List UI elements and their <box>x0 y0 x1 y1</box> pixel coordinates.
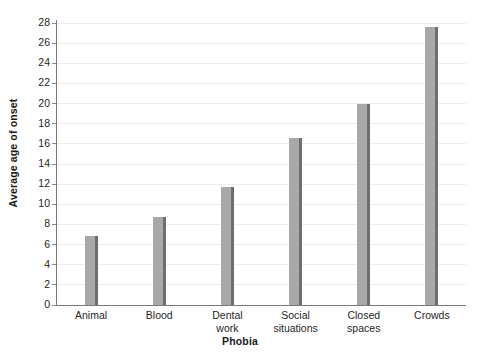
x-label-line-1: Animal <box>75 309 107 321</box>
x-label-line-1: Dental <box>212 309 242 321</box>
x-label-line-2: spaces <box>319 322 409 335</box>
x-label-line-1: Social <box>281 309 310 321</box>
x-label-line-1: Closed <box>347 309 380 321</box>
y-tick-label: 16 <box>24 137 50 149</box>
y-tick-label: 20 <box>24 97 50 109</box>
y-tick-label: 2 <box>24 278 50 290</box>
bar <box>357 104 370 305</box>
y-tick-label: 12 <box>24 177 50 189</box>
plot-area <box>57 23 466 305</box>
y-tick-label: 26 <box>24 36 50 48</box>
x-label-line-1: Blood <box>146 309 173 321</box>
y-tick-label: 6 <box>24 238 50 250</box>
x-axis-title: Phobia <box>0 335 480 347</box>
y-tick-label: 18 <box>24 117 50 129</box>
bar <box>425 27 438 305</box>
bar <box>85 236 98 305</box>
y-tick-label: 8 <box>24 217 50 229</box>
bar <box>289 138 302 305</box>
y-tick-label: 4 <box>24 258 50 270</box>
bar <box>221 187 234 305</box>
y-axis-title-text: Average age of onset <box>7 98 19 207</box>
bar <box>153 217 166 305</box>
y-tick-label: 10 <box>24 197 50 209</box>
x-axis-category-label: Crowds <box>387 309 477 322</box>
y-tick-label: 14 <box>24 157 50 169</box>
x-label-line-1: Crowds <box>414 309 450 321</box>
y-axis-title: Average age of onset <box>0 0 26 305</box>
y-tick-label: 28 <box>24 16 50 28</box>
bar-chart: Average age of onset 0246810121416182022… <box>0 0 480 360</box>
y-tick-label: 24 <box>24 56 50 68</box>
y-tick-label: 22 <box>24 76 50 88</box>
